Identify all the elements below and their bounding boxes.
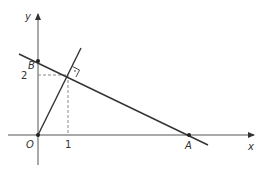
y-axis-label: y (24, 11, 32, 22)
right-angle-marker (73, 67, 80, 78)
origin-label: O (26, 139, 34, 150)
x-axis-label: x (247, 141, 254, 152)
tick-label-y-2: 2 (21, 70, 27, 81)
tick-label-x-1: 1 (65, 139, 71, 150)
point-o (36, 133, 40, 137)
line-op (38, 48, 81, 135)
line-ab (19, 54, 208, 145)
point-label-a: A (184, 140, 192, 151)
point-label-b: B (28, 60, 35, 71)
right-angle-dot (74, 70, 76, 72)
point-b (36, 59, 40, 63)
coordinate-diagram: y x O 1 2 B A (0, 0, 263, 171)
point-a (187, 133, 191, 137)
